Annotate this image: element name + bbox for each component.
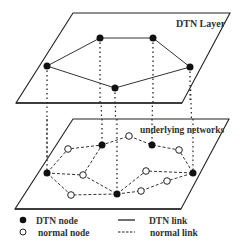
legend-dtn-link: DTN link [149,216,188,226]
normal-node [143,168,150,175]
dtn-node [149,142,156,149]
dtn-node [114,191,121,198]
dtn-node [187,64,194,71]
normal-node-legend-icon [20,229,26,235]
dtn-layer-label: DTN Layer [176,18,226,29]
legend-normal-link: normal link [150,228,198,238]
normal-node [65,146,72,153]
legend-normal-node: normal node [38,228,89,238]
dtn-node [99,142,106,149]
normal-node [68,192,75,199]
dtn-node [44,63,51,70]
normal-node [176,147,183,154]
dtn-node [97,35,104,42]
dtn-layered-diagram: DTN Layer underlying networks [0,0,243,250]
normal-node [126,133,133,140]
dtn-node-legend-icon [20,217,27,224]
normal-node [164,178,171,185]
dtn-node [150,35,157,42]
underlying-networks-label: underlying networks [140,125,224,135]
legend: DTN node normal node DTN link normal lin… [20,216,199,238]
dtn-node [112,85,119,92]
normal-node [138,188,145,195]
normal-node [80,172,87,179]
legend-dtn-node: DTN node [36,216,78,226]
dtn-node [190,170,197,177]
dtn-node [44,170,51,177]
